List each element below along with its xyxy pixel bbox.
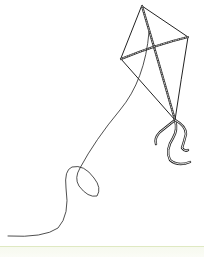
kite-illustration	[0, 0, 204, 257]
kite-tail-2	[168, 120, 190, 164]
kite-icon	[121, 6, 190, 164]
kite-string	[8, 32, 149, 236]
bottom-band	[0, 246, 204, 257]
bottom-divider	[0, 246, 204, 247]
kite-frame	[121, 6, 188, 120]
